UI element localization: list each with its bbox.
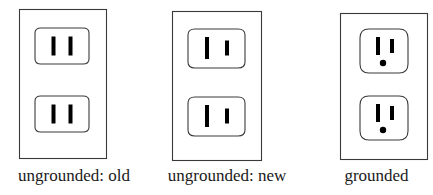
caption-ungrounded-old: ungrounded: old	[0, 166, 148, 185]
receptacle-upper	[360, 29, 408, 73]
socket-outline	[188, 97, 245, 136]
right-slot	[225, 41, 229, 56]
socket-outline	[188, 29, 245, 68]
ground-hole	[380, 127, 386, 133]
receptacle-lower	[188, 97, 245, 136]
left-slot	[376, 104, 380, 122]
ground-hole	[380, 60, 386, 66]
left-slot	[52, 37, 56, 56]
caption-grounded: grounded	[320, 166, 433, 185]
socket-outline	[35, 96, 89, 132]
receptacle-upper	[188, 29, 245, 68]
right-slot	[225, 109, 229, 124]
left-slot	[205, 105, 209, 127]
receptacle-lower	[35, 96, 89, 132]
right-slot	[69, 105, 73, 124]
outlet-grounded	[338, 11, 432, 164]
socket-outline	[360, 29, 408, 73]
outlet-ungrounded-new	[170, 9, 266, 165]
right-slot	[390, 39, 394, 53]
outlet-diagram-figure: ungrounded: old ungrounded: new grounded	[0, 0, 433, 195]
socket-outline	[360, 96, 408, 140]
left-slot	[52, 105, 56, 124]
left-slot	[376, 37, 380, 55]
right-slot	[69, 37, 73, 56]
receptacle-lower	[360, 96, 408, 140]
left-slot	[205, 37, 209, 59]
socket-outline	[35, 28, 89, 64]
outlet-ungrounded-old	[17, 7, 111, 163]
right-slot	[390, 106, 394, 120]
receptacle-upper	[35, 28, 89, 64]
caption-ungrounded-new: ungrounded: new	[152, 166, 302, 185]
